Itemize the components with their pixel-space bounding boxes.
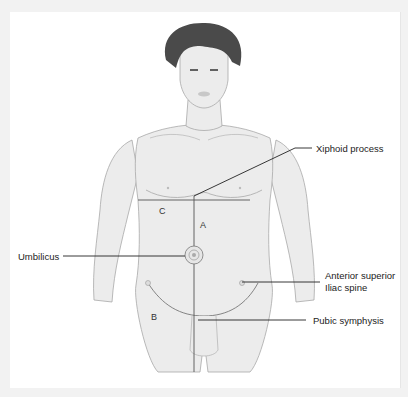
label-xiphoid-process: Xiphoid process	[316, 143, 384, 154]
label-asis-line2: Iliac spine	[325, 282, 367, 293]
region-c: C	[159, 206, 166, 216]
left-arm	[94, 140, 138, 302]
region-b: B	[151, 312, 157, 322]
label-pubic-symphysis: Pubic symphysis	[313, 315, 384, 326]
right-arm	[270, 140, 314, 302]
region-a: A	[200, 220, 206, 230]
label-asis-line1: Anterior superior	[325, 270, 395, 281]
label-umbilicus: Umbilicus	[18, 251, 59, 262]
human-figure-illustration	[0, 0, 408, 397]
